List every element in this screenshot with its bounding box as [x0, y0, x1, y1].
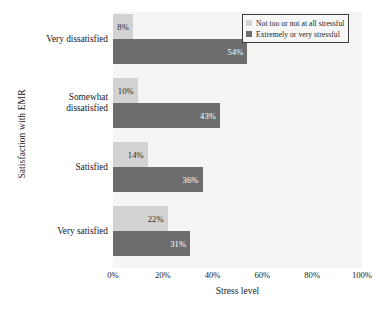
bar-value-label: 31%: [170, 239, 186, 249]
category-label: Satisfied: [27, 162, 108, 173]
category-label-line: Satisfied: [27, 162, 108, 173]
bar-value-label: 22%: [148, 214, 164, 224]
bar-group: 22%31%: [113, 206, 362, 256]
bar-value-label: 14%: [128, 150, 144, 160]
bar: 54%: [113, 39, 247, 64]
bar: 31%: [113, 231, 190, 256]
legend-entry[interactable]: Extremely or very stressful: [246, 29, 344, 39]
bar: 8%: [113, 14, 133, 39]
bar-value-label: 54%: [227, 47, 243, 57]
legend-entry-label: Extremely or very stressful: [256, 30, 340, 39]
category-label-line: Somewhat: [27, 92, 108, 103]
x-axis-tick-label: 20%: [155, 270, 171, 280]
category-label: Very dissatisfied: [27, 34, 108, 45]
category-label-line: Very dissatisfied: [27, 34, 108, 45]
light-gray-square-icon: [246, 20, 252, 26]
bar-group: 10%43%: [113, 78, 362, 128]
x-axis-tick-label: 60%: [255, 270, 271, 280]
legend-entry-label: Not too or not at all stressful: [256, 19, 344, 28]
x-axis-tick-label: 0%: [107, 270, 118, 280]
category-label-line: Very satisfied: [27, 226, 108, 237]
bar-value-label: 8%: [117, 22, 129, 32]
bar-value-label: 43%: [200, 111, 216, 121]
plot-area: 8%54%10%43%14%36%22%31%: [113, 12, 362, 268]
bar-value-label: 10%: [118, 86, 134, 96]
legend-entry[interactable]: Not too or not at all stressful: [246, 18, 344, 28]
bar: 22%: [113, 206, 168, 231]
bar: 36%: [113, 167, 203, 192]
category-label: Very satisfied: [27, 226, 108, 237]
x-axis-title: Stress level: [113, 286, 362, 296]
x-axis-tick-label: 80%: [304, 270, 320, 280]
chart-legend: Not too or not at all stressfulExtremely…: [242, 14, 349, 43]
category-axis: Very dissatisfiedSomewhatdissatisfiedSat…: [30, 12, 111, 268]
dark-gray-square-icon: [246, 31, 252, 37]
bar-value-label: 36%: [183, 175, 199, 185]
grouped-bar-chart: Satisfaction with EMR Very dissatisfiedS…: [0, 0, 384, 319]
bar: 14%: [113, 142, 148, 167]
x-axis-tick-label: 100%: [352, 270, 372, 280]
y-axis-title-text: Satisfaction with EMR: [17, 89, 27, 178]
bar: 10%: [113, 78, 138, 103]
x-axis-tick-label: 40%: [205, 270, 221, 280]
category-label: Somewhatdissatisfied: [27, 92, 108, 114]
bar-group: 14%36%: [113, 142, 362, 192]
bar: 43%: [113, 103, 220, 128]
x-axis-tick-labels: 0%20%40%60%80%100%: [113, 270, 362, 284]
category-label-line: dissatisfied: [27, 103, 108, 114]
